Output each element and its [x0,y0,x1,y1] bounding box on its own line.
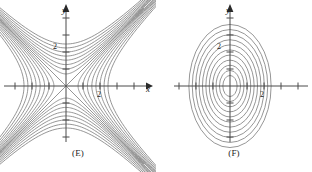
panel-e: y x 2 2 (E) [0,0,156,172]
panel-f-y-tick-label-2: 2 [217,42,221,51]
panel-e-x-tick-label-2: 2 [97,90,101,99]
panel-e-y-tick-label-2: 2 [53,42,57,51]
panel-f-caption: (F) [156,148,312,158]
panel-e-plot: y x 2 2 [0,0,156,172]
panel-f: y 2 2 (F) [156,0,312,172]
panel-e-y-axis-label: y [61,5,66,15]
panel-f-plot: y 2 2 [156,0,312,172]
panel-e-caption: (E) [0,148,156,158]
panel-e-x-axis-label: x [145,84,150,94]
panel-f-x-tick-label-2: 2 [260,90,264,99]
panel-f-y-axis-label: y [225,5,230,15]
contour-figure: y x 2 2 (E) y 2 2 (F) [0,0,312,172]
